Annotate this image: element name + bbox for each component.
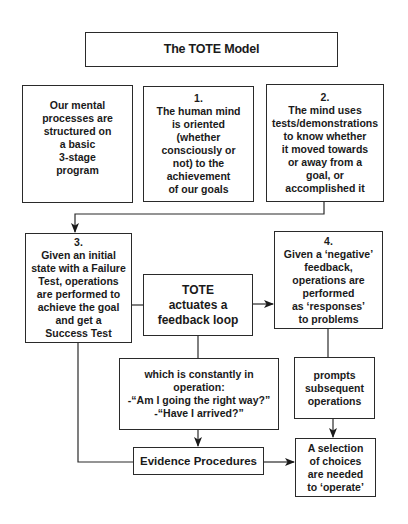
intro-line: a basic xyxy=(60,138,96,151)
step-4-line: to problems xyxy=(298,313,358,326)
step-2-line: to know whether xyxy=(284,130,367,143)
step-number: 3. xyxy=(74,236,83,249)
step-1-line: of our goals xyxy=(168,183,228,196)
prompts-line: operations xyxy=(308,395,362,408)
step-1-line: consciously or xyxy=(161,144,235,157)
selection-line: of choices xyxy=(310,455,362,468)
diagram-title: The TOTE Model xyxy=(164,43,260,56)
step-3-line: Success Test xyxy=(45,327,111,340)
step-2-line: The mind uses xyxy=(288,104,362,117)
step-2-line: it moved towards xyxy=(282,143,368,156)
step-number: 2. xyxy=(321,91,330,104)
step-4-line: operations are xyxy=(292,274,364,287)
selection-box: A selection of choices are needed to ‘op… xyxy=(295,438,376,497)
step-2-line: accomplished it xyxy=(285,182,364,195)
step-1-line: not) to the xyxy=(173,157,224,170)
step-2-line: or away from a xyxy=(288,156,362,169)
step-4-line: performed xyxy=(303,287,355,300)
step-4-line: as ‘responses’ xyxy=(292,300,365,313)
selection-line: to ‘operate’ xyxy=(307,481,364,494)
step-3-line: achieve the goal xyxy=(38,301,120,314)
constant-operation-box: which is constantly in operation: -“Am I… xyxy=(119,358,279,430)
selection-line: A selection xyxy=(308,442,364,455)
intro-line: 3-stage xyxy=(59,151,96,164)
prompts-box: prompts subsequent operations xyxy=(294,357,375,419)
intro-box: Our mental processes are structured on a… xyxy=(22,85,133,203)
step-3-line: state with a Failure xyxy=(31,262,126,275)
title-box: The TOTE Model xyxy=(85,32,338,67)
step-2-line: goal, or xyxy=(306,169,344,182)
step-2-box: 2. The mind uses tests/demonstrations to… xyxy=(266,84,384,202)
constant-line: -“Am I going the right way?” xyxy=(128,394,270,407)
prompts-line: prompts xyxy=(314,369,356,382)
tote-line: actuates a xyxy=(169,298,228,313)
selection-line: are needed xyxy=(308,468,363,481)
step-4-box: 4. Given a ‘negative’ feedback, operatio… xyxy=(274,231,383,329)
tote-box: TOTE actuates a feedback loop xyxy=(143,274,253,336)
tote-model-diagram: The TOTE Model Our mental processes are … xyxy=(0,0,408,524)
constant-line: which is constantly in xyxy=(144,368,253,381)
step-3-line: Test, operations xyxy=(38,275,118,288)
step-2-line: tests/demonstrations xyxy=(272,117,378,130)
constant-line: operation: xyxy=(173,381,224,394)
tote-line: feedback loop xyxy=(158,313,239,328)
step-1-line: The human mind xyxy=(157,105,241,118)
evidence-label: Evidence Procedures xyxy=(140,455,257,468)
step-3-line: are performed to xyxy=(37,288,120,301)
step-3-line: Given an initial xyxy=(41,249,116,262)
step-1-line: is oriented xyxy=(172,118,225,131)
intro-line: structured on xyxy=(44,125,112,138)
constant-line: -“Have I arrived?” xyxy=(154,407,243,420)
tote-line: TOTE xyxy=(182,283,214,298)
intro-line: processes are xyxy=(42,112,113,125)
step-4-line: Given a ‘negative’ xyxy=(284,248,373,261)
step-1-line: achievement xyxy=(167,170,231,183)
connector-step2-to-step3 xyxy=(75,202,324,232)
intro-line: program xyxy=(56,164,99,177)
evidence-procedures-box: Evidence Procedures xyxy=(133,447,264,475)
intro-line: Our mental xyxy=(50,99,105,112)
step-3-box: 3. Given an initial state with a Failure… xyxy=(25,233,132,343)
step-1-line: (whether xyxy=(177,131,221,144)
step-number: 4. xyxy=(324,235,333,248)
step-1-box: 1. The human mind is oriented (whether c… xyxy=(143,86,254,202)
prompts-line: subsequent xyxy=(305,382,364,395)
step-number: 1. xyxy=(194,92,203,105)
step-4-line: feedback, xyxy=(304,261,352,274)
step-3-line: and get a xyxy=(55,314,101,327)
